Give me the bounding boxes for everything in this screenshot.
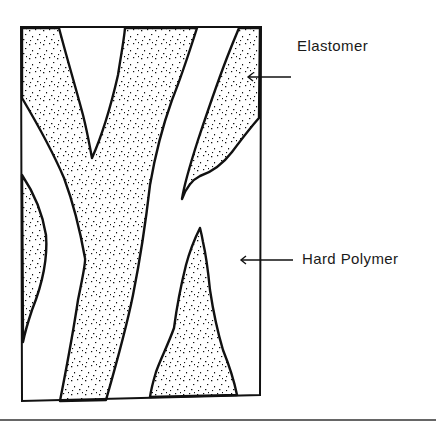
morphology-diagram <box>0 0 436 431</box>
hard-polymer-label: Hard Polymer <box>302 250 399 267</box>
elastomer-domain-right-sliver <box>182 28 260 199</box>
elastomer-domain-left-lens <box>22 175 46 342</box>
elastomer-domains <box>22 28 260 401</box>
elastomer-domain-bottom-peak <box>150 228 237 397</box>
hard-polymer-arrow <box>241 256 293 264</box>
elastomer-label: Elastomer <box>297 37 368 54</box>
